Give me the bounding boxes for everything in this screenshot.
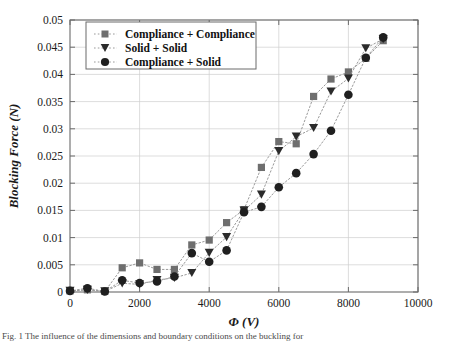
y-tick-label: 0.04 (43, 68, 63, 80)
marker-circle (188, 249, 197, 258)
legend-label[interactable]: Solid + Solid (125, 42, 188, 54)
x-axis-label: Φ (V) (229, 314, 260, 329)
marker-square (119, 264, 126, 271)
chart-legend[interactable]: Compliance + ComplianceSolid + SolidComp… (86, 22, 256, 69)
y-tick-label: 0.045 (37, 41, 63, 53)
marker-circle (205, 258, 214, 267)
marker-circle (118, 276, 127, 285)
marker-circle (327, 126, 336, 135)
x-tick-label: 4000 (198, 297, 221, 309)
y-tick-label: 0.035 (37, 96, 63, 108)
y-tick-label: 0.025 (37, 150, 63, 162)
x-tick-label: 10000 (404, 297, 433, 309)
marker-circle (240, 208, 249, 217)
y-tick-label: 0.015 (37, 204, 63, 216)
marker-circle (275, 183, 284, 192)
y-tick-label: 0.005 (37, 259, 63, 271)
marker-square (102, 31, 109, 38)
legend-label[interactable]: Compliance + Solid (125, 56, 222, 69)
marker-circle (344, 91, 353, 100)
marker-square (153, 266, 160, 273)
x-tick-label: 6000 (267, 297, 290, 309)
marker-square (223, 219, 230, 226)
y-tick-label: 0.05 (43, 14, 63, 26)
y-tick-label: 0 (57, 286, 63, 298)
marker-square (136, 259, 143, 266)
marker-square (206, 236, 213, 243)
legend-label[interactable]: Compliance + Compliance (125, 28, 255, 41)
figure-caption: Fig. 1 The influence of the dimensions a… (2, 331, 448, 341)
marker-circle (170, 272, 179, 281)
y-tick-label: 0.01 (43, 232, 63, 244)
marker-circle (135, 279, 144, 288)
figure-container: 0200040006000800010000 00.0050.010.0150.… (0, 0, 450, 343)
marker-circle (153, 277, 162, 286)
marker-circle (379, 33, 388, 42)
y-tick-label: 0.02 (43, 177, 63, 189)
marker-square (310, 93, 317, 100)
marker-circle (309, 150, 318, 159)
x-tick-label: 2000 (128, 297, 151, 309)
x-tick-label: 8000 (337, 297, 360, 309)
marker-circle (101, 58, 109, 66)
marker-circle (83, 284, 92, 293)
marker-circle (362, 54, 371, 63)
x-tick-label: 0 (67, 297, 73, 309)
marker-square (275, 138, 282, 145)
marker-square (171, 266, 178, 273)
marker-circle (222, 246, 231, 255)
marker-circle (257, 203, 266, 212)
marker-circle (292, 169, 301, 178)
marker-circle (101, 287, 110, 296)
blocking-force-chart: 0200040006000800010000 00.0050.010.0150.… (0, 0, 450, 343)
marker-square (258, 164, 265, 171)
marker-square (327, 75, 334, 82)
marker-square (188, 241, 195, 248)
marker-circle (66, 287, 75, 296)
y-tick-label: 0.03 (43, 123, 63, 135)
marker-square (293, 140, 300, 147)
y-axis-label: Blocking Force (N) (6, 104, 21, 210)
